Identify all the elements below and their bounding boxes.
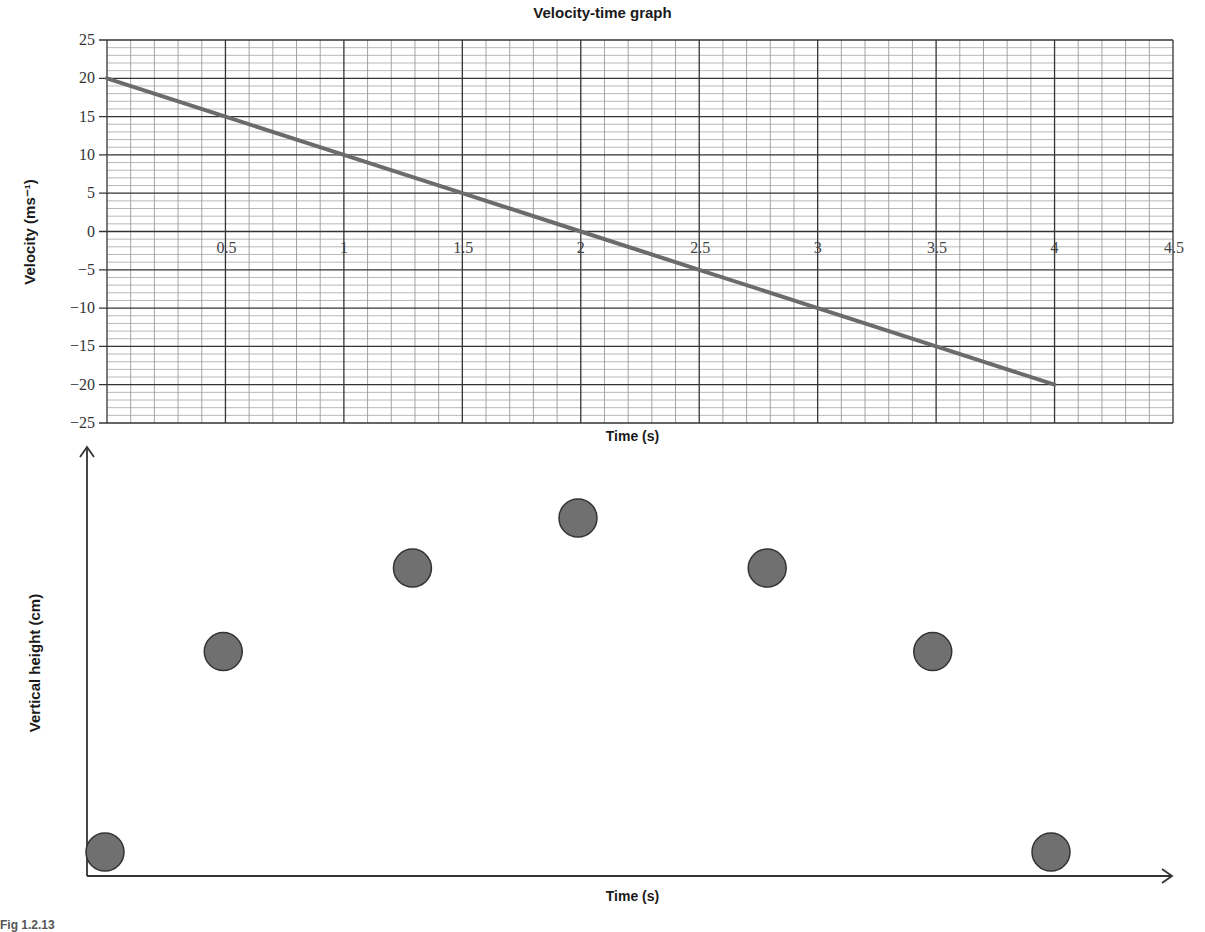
vertical-height-axis-label: Vertical height (cm) <box>26 594 43 732</box>
ball-marker <box>86 833 124 871</box>
x-tick-label: 1 <box>340 240 348 256</box>
x-tick-label: 3.5 <box>927 240 947 256</box>
x-tick-label: 2.5 <box>690 240 710 256</box>
ball-time-x-axis-label: Time (s) <box>0 888 1205 904</box>
y-tick-label: −20 <box>55 377 95 393</box>
y-tick-label: 0 <box>55 224 95 240</box>
ball-marker <box>748 549 786 587</box>
x-tick-label: 2 <box>577 240 585 256</box>
y-tick-label: 15 <box>55 109 95 125</box>
ball-marker <box>393 549 431 587</box>
ball-marker <box>204 633 242 671</box>
y-tick-label: 5 <box>55 185 95 201</box>
figure-caption: Fig 1.2.13 <box>0 918 55 932</box>
ball-marker <box>559 499 597 537</box>
x-tick-label: 4.5 <box>1164 240 1184 256</box>
x-tick-label: 0.5 <box>216 240 236 256</box>
y-tick-label: 20 <box>55 70 95 86</box>
x-tick-label: 4 <box>1051 240 1059 256</box>
y-tick-label: −25 <box>55 415 95 431</box>
y-tick-label: 10 <box>55 147 95 163</box>
y-tick-label: −15 <box>55 338 95 354</box>
y-tick-label: −5 <box>55 262 95 278</box>
y-tick-label: 25 <box>55 32 95 48</box>
x-tick-label: 3 <box>814 240 822 256</box>
ball-marker <box>914 633 952 671</box>
y-tick-label: −10 <box>55 300 95 316</box>
ball-marker <box>1032 833 1070 871</box>
x-tick-label: 1.5 <box>453 240 473 256</box>
